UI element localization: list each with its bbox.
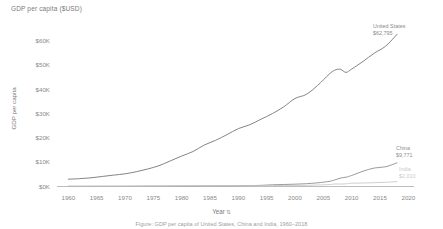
sort-icon[interactable]: ⇅ <box>226 209 231 215</box>
y-tick-label: $20K <box>16 134 50 141</box>
line-series-india <box>68 182 397 187</box>
figure-caption: Figure: GDP per capita of United States,… <box>0 221 443 227</box>
y-tick-label: $0K <box>16 183 50 190</box>
series-value-united-states: $62,795 <box>373 30 405 37</box>
x-axis-title-label: Year <box>212 208 225 215</box>
y-tick-label: $60K <box>16 37 50 44</box>
x-tick-label: 1965 <box>82 194 112 201</box>
x-tick-label: 1995 <box>252 194 282 201</box>
y-tick-label: $40K <box>16 86 50 93</box>
x-tick-label: 2010 <box>337 194 367 201</box>
x-tick-label: 2000 <box>280 194 310 201</box>
chart-title: GDP per capita ($USD) <box>11 5 82 12</box>
series-label-united-states: United States $62,795 <box>373 23 405 36</box>
x-tick-label: 1990 <box>223 194 253 201</box>
gdp-per-capita-line-chart: GDP per capita ($USD) GDP per capita $60… <box>0 0 443 229</box>
x-tick-label: 1960 <box>53 194 83 201</box>
y-tick-label: $10K <box>16 158 50 165</box>
x-axis-title[interactable]: Year⇅ <box>0 208 443 215</box>
series-label-india: India $2,010 <box>399 166 416 179</box>
x-tick-label: 1980 <box>167 194 197 201</box>
x-tick-label: 2005 <box>308 194 338 201</box>
series-name-united-states: United States <box>373 23 405 30</box>
x-tick-label: 2020 <box>393 194 423 201</box>
series-value-china: $9,771 <box>396 152 413 159</box>
x-tick-label: 2015 <box>365 194 395 201</box>
y-tick-label: $30K <box>16 110 50 117</box>
x-tick-label: 1985 <box>195 194 225 201</box>
series-name-china: China <box>396 145 413 152</box>
line-series-united-states <box>68 34 397 179</box>
x-tick-label: 1970 <box>110 194 140 201</box>
series-value-india: $2,010 <box>399 173 416 180</box>
x-tick-label: 1975 <box>138 194 168 201</box>
series-name-india: India <box>399 166 416 173</box>
series-label-china: China $9,771 <box>396 145 413 158</box>
y-tick-label: $50K <box>16 61 50 68</box>
